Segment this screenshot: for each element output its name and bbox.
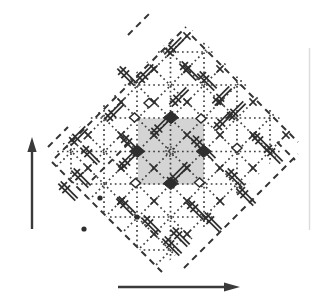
dark-node-dot	[134, 214, 139, 219]
diagram-svg	[0, 0, 313, 304]
dark-node-dot	[81, 226, 86, 231]
dark-node-dot	[97, 195, 102, 200]
lattice-diagram-figure	[0, 0, 313, 304]
